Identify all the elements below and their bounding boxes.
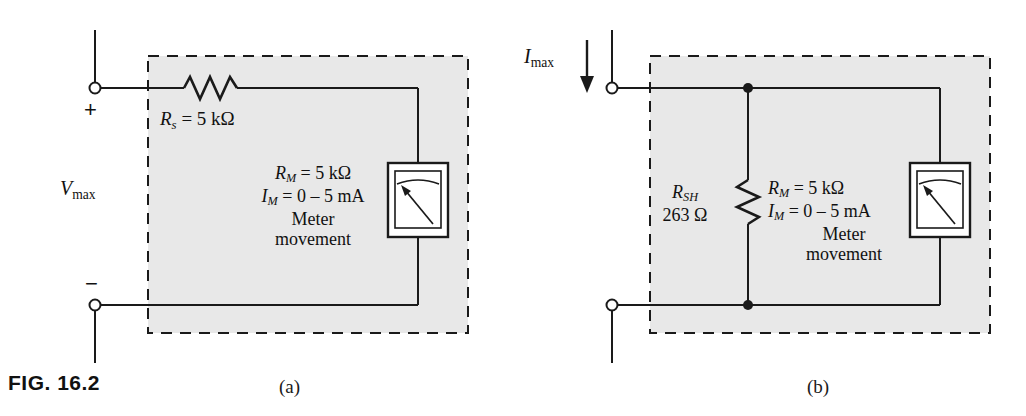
vmax-symbol: V — [60, 177, 72, 199]
panel-b-meter-current-line: IM = 0 – 5 mA — [768, 201, 938, 224]
im-subscript-b: M — [774, 210, 784, 224]
panel-a-meter-movement-icon — [388, 163, 448, 237]
rm-value-b: = 5 kΩ — [794, 178, 845, 198]
panel-a-source-voltage-label: Vmax — [60, 177, 96, 202]
panel-b-bottom-terminal — [607, 300, 618, 311]
panel-a-positive-terminal — [90, 83, 101, 94]
rsh-symbol-line: RSH — [648, 182, 722, 205]
rs-subscript: s — [172, 117, 177, 132]
panel-a-meter-resistance-line: RM = 5 kΩ — [238, 163, 388, 186]
rsh-symbol: R — [672, 182, 683, 202]
rs-symbol: R — [160, 108, 172, 129]
rm-symbol-a: R — [275, 163, 286, 183]
panel-a-plus-sign: + — [84, 98, 97, 123]
panel-a-negative-terminal — [90, 300, 101, 311]
im-value-b: = 0 – 5 mA — [789, 201, 871, 221]
im-value-a: = 0 – 5 mA — [282, 186, 364, 206]
panel-a-meter-name-line1: Meter — [238, 209, 388, 229]
panel-b-bottom-junction-dot — [743, 300, 753, 310]
im-subscript-a: M — [268, 195, 278, 209]
rm-value-a: = 5 kΩ — [301, 163, 352, 183]
panel-a-series-resistor-label: Rs = 5 kΩ — [160, 108, 235, 132]
panel-b-meter-resistance-line: RM = 5 kΩ — [768, 178, 938, 201]
panel-b-top-terminal — [607, 83, 618, 94]
figure-number-caption: FIG. 16.2 — [8, 371, 100, 395]
panel-a-minus-sign: − — [85, 272, 98, 297]
panel-a-meter-current-line: IM = 0 – 5 mA — [238, 186, 388, 209]
imax-subscript: max — [531, 55, 554, 70]
rm-subscript-b: M — [779, 186, 789, 200]
panel-b-current-arrow-icon — [580, 40, 594, 93]
panel-b-source-current-label: Imax — [524, 45, 554, 70]
rsh-value: 263 Ω — [648, 205, 722, 225]
panel-b-meter-labels: RM = 5 kΩ IM = 0 – 5 mA Meter movement — [768, 178, 938, 265]
figure-canvas: + − Vmax Rs = 5 kΩ RM = 5 kΩ IM = 0 – 5 … — [0, 0, 1026, 416]
panel-b-caption: (b) — [807, 376, 829, 398]
imax-symbol: I — [524, 45, 531, 67]
rm-symbol-b: R — [768, 178, 779, 198]
panel-a-caption: (a) — [279, 376, 300, 398]
panel-b-meter-name-line2: movement — [768, 244, 920, 264]
panel-a-meter-labels: RM = 5 kΩ IM = 0 – 5 mA Meter movement — [238, 163, 388, 250]
rm-subscript-a: M — [286, 171, 296, 185]
panel-b-meter-name-line1: Meter — [768, 224, 920, 244]
rs-value: = 5 kΩ — [181, 108, 234, 129]
vmax-subscript: max — [72, 187, 95, 202]
rsh-subscript: SH — [683, 190, 698, 204]
panel-b-shunt-resistor-label: RSH 263 Ω — [648, 182, 722, 225]
panel-a-meter-name-line2: movement — [238, 229, 388, 249]
